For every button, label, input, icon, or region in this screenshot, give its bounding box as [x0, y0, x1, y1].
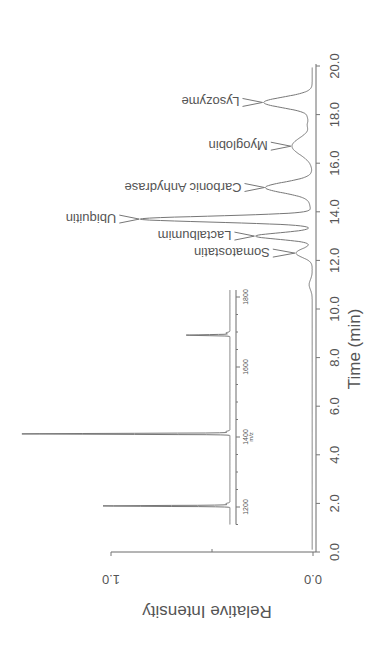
time-tick-label: 20.0 — [327, 53, 342, 78]
time-tick-label: 10.0 — [327, 296, 342, 321]
peak-label: Myoglobin — [209, 138, 268, 153]
time-tick-label: 8.0 — [327, 349, 342, 367]
intensity-tick-label: 0.0 — [304, 572, 322, 587]
time-tick-label: 16.0 — [327, 151, 342, 176]
peak-label: Lysozyme — [181, 94, 239, 109]
mz-tick-label: 1600 — [242, 359, 249, 375]
mz-tick-label: 1800 — [242, 289, 249, 305]
ms-trace — [22, 290, 230, 525]
mz-tick-label: 1200 — [242, 499, 249, 515]
inset-mass-spectrum: 1200140016001800 — [22, 289, 249, 524]
peak-label: Carbonic Anhydrase — [124, 180, 241, 195]
peak-label: Lactalbumim — [158, 228, 232, 243]
intensity-ticks: 0.01.0 — [102, 549, 322, 587]
peak-pointer — [234, 232, 254, 240]
x-axis-label: Time (min) — [345, 309, 364, 390]
time-tick-label: 4.0 — [327, 446, 342, 464]
peak-labels: SomatostatinLactalbumimUbiquitinCarbonic… — [66, 94, 295, 260]
peak-label: Somatostatin — [194, 245, 270, 260]
time-tick-label: 18.0 — [327, 102, 342, 127]
intensity-tick-label: 1.0 — [102, 572, 120, 587]
time-tick-label: 12.0 — [327, 248, 342, 273]
time-tick-label: 2.0 — [327, 494, 342, 512]
time-ticks: 0.02.04.06.08.010.012.014.016.018.020.0 — [316, 53, 342, 561]
peak-pointer — [273, 249, 295, 257]
time-tick-label: 6.0 — [327, 397, 342, 415]
time-tick-label: 14.0 — [327, 199, 342, 224]
mz-axis-label: m/z — [248, 432, 254, 442]
peak-label: Ubiquitin — [66, 211, 117, 226]
peak-pointer — [243, 98, 263, 106]
chart-svg: 0.02.04.06.08.010.012.014.016.018.020.0 … — [0, 0, 385, 652]
peak-pointer — [271, 142, 291, 150]
peak-pointer — [119, 215, 139, 223]
mz-ticks: 1200140016001800 — [236, 289, 249, 524]
time-tick-label: 0.0 — [327, 543, 342, 561]
y-axis-label: Relative Intensity — [142, 602, 272, 621]
peak-pointer — [245, 184, 265, 192]
